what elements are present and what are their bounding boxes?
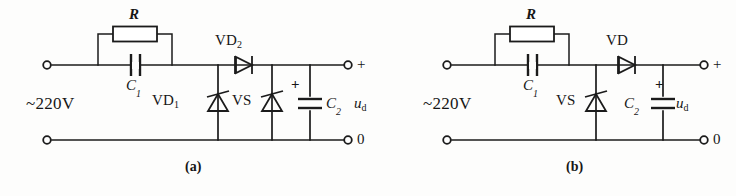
label-output-ud-a: ud <box>354 96 367 111</box>
label-vd1-sub: 1 <box>174 99 179 110</box>
label-resistor-r-b: R <box>526 7 536 22</box>
caption-b: (b) <box>566 160 583 174</box>
label-vd2-main: VD <box>215 32 237 48</box>
terminal-ac-top-a <box>43 61 51 69</box>
terminal-out-zero-a <box>344 136 352 144</box>
label-terminal-plus-b: + <box>713 57 721 72</box>
label-c2-sub: 2 <box>336 106 341 117</box>
wire-r-right-b <box>554 34 569 65</box>
label-c2-sub-b: 2 <box>634 106 639 117</box>
label-c2-polarity-b: + <box>655 77 664 92</box>
circuit-a <box>43 27 352 144</box>
label-c2-main: C <box>326 95 336 111</box>
figure-root: R C1 ~220V VD1 VD2 VS + C2 ud + 0 (a) R … <box>0 0 736 196</box>
label-capacitor-c2-a: C2 <box>326 96 341 114</box>
caption-a: (a) <box>185 160 201 174</box>
label-c1-main-b: C <box>523 77 533 93</box>
label-terminal-plus-a: + <box>357 57 365 72</box>
terminal-ac-bottom-a <box>43 136 51 144</box>
label-source-b: ~220V <box>423 95 471 112</box>
terminal-ac-top-b <box>443 61 451 69</box>
label-c1-main: C <box>126 77 136 93</box>
label-ud-main-b: u <box>676 95 684 111</box>
label-resistor-r-a: R <box>129 7 139 22</box>
label-diode-vd1-a: VD1 <box>152 93 179 108</box>
label-c2-main-b: C <box>624 95 634 111</box>
label-diode-vd2-a: VD2 <box>215 33 242 48</box>
wire-r-right-a <box>157 34 172 65</box>
label-ud-main: u <box>354 95 362 111</box>
wire-r-left-a <box>98 34 113 65</box>
label-output-ud-b: ud <box>676 96 689 111</box>
label-terminal-zero-b: 0 <box>713 132 721 147</box>
label-c1-sub-b: 1 <box>533 88 538 99</box>
terminal-ac-bottom-b <box>443 136 451 144</box>
label-capacitor-c2-b: C2 <box>624 96 639 114</box>
label-source-a: ~220V <box>26 95 74 112</box>
label-c2-polarity-a: + <box>291 77 300 92</box>
label-ud-sub: d <box>362 102 367 113</box>
label-capacitor-c1-b: C1 <box>523 78 538 96</box>
c1-rail-gap-a <box>132 62 139 69</box>
c1-rail-gap-b <box>529 62 536 69</box>
terminal-out-plus-a <box>344 61 352 69</box>
terminal-out-zero-b <box>700 136 708 144</box>
resistor-r-b <box>510 27 554 42</box>
wire-r-left-b <box>495 34 510 65</box>
terminal-out-plus-b <box>700 61 708 69</box>
resistor-r-a <box>113 27 157 42</box>
label-diode-vd-b: VD <box>606 33 628 48</box>
label-switch-vs-a: VS <box>232 93 252 108</box>
circuit-b <box>443 27 708 144</box>
label-terminal-zero-a: 0 <box>357 132 365 147</box>
label-capacitor-c1-a: C1 <box>126 78 141 96</box>
label-switch-vs-b: VS <box>556 93 576 108</box>
label-c1-sub: 1 <box>136 88 141 99</box>
label-vd2-sub: 2 <box>237 39 242 50</box>
label-vd1-main: VD <box>152 92 174 108</box>
label-ud-sub-b: d <box>684 102 689 113</box>
